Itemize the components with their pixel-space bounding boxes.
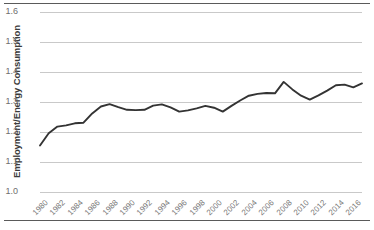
x-axis-tick-label: 1998: [187, 198, 206, 217]
x-axis-tick-label: 2008: [274, 198, 293, 217]
x-axis-tick-label: 2006: [257, 198, 276, 217]
x-axis-tick-label: 1992: [135, 198, 154, 217]
y-axis-tick-label: 1.0: [0, 186, 18, 196]
page-rule-top: [4, 3, 370, 4]
x-axis-tick-label: 2016: [344, 198, 363, 217]
x-axis-tick-label: 2014: [327, 198, 346, 217]
x-axis-tick-label: 1984: [66, 198, 85, 217]
plot-area: [40, 12, 362, 192]
x-axis-tick-label: 1982: [48, 198, 67, 217]
x-axis-tick-labels: 1980198219841986198819901992199419961998…: [40, 193, 362, 227]
line-path: [40, 82, 362, 146]
x-axis-tick-label: 1986: [83, 198, 102, 217]
y-axis-tick-label: 1.6: [0, 6, 18, 16]
x-axis-tick-label: 1990: [118, 198, 137, 217]
data-series-line: [40, 12, 362, 192]
y-axis-tick-label: 1.5: [0, 36, 18, 46]
y-axis-tick-label: 1.3: [0, 96, 18, 106]
y-axis-tick-label: 1.2: [0, 126, 18, 136]
chart-figure: Employment/Energy Consumption 1.61.51.41…: [0, 0, 374, 230]
x-axis-tick-label: 2004: [240, 198, 259, 217]
y-axis-tick-label: 1.1: [0, 156, 18, 166]
x-axis-tick-label: 2012: [309, 198, 328, 217]
x-axis-tick-label: 1988: [100, 198, 119, 217]
x-axis-tick-label: 2010: [292, 198, 311, 217]
y-axis-tick-label: 1.4: [0, 66, 18, 76]
x-axis-tick-label: 1980: [31, 198, 50, 217]
x-axis-tick-label: 1994: [153, 198, 172, 217]
x-axis-tick-label: 1996: [170, 198, 189, 217]
x-axis-tick-label: 2002: [222, 198, 241, 217]
x-axis-tick-label: 2000: [205, 198, 224, 217]
